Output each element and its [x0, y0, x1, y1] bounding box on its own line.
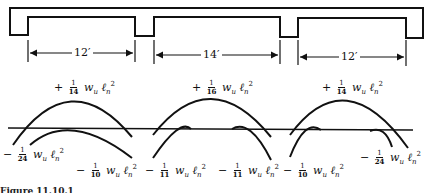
positive-moment-span-3: + 114 wu ℓn2: [322, 80, 383, 96]
negative-moment-exterior-right: − 124 wu ℓn2: [360, 150, 421, 166]
positive-moment-span-2: + 116 wu ℓn2: [192, 80, 253, 96]
span-3-label: 12′: [339, 51, 360, 62]
negative-moment-support-1-right: − 111 wu ℓn2: [145, 163, 206, 179]
figure-caption: Figure 11.10.1: [0, 186, 74, 193]
span-1-label: 12′: [72, 47, 93, 58]
span-2-label: 14′: [201, 49, 222, 60]
negative-moment-exterior-left: − 124 wu ℓn2: [3, 147, 64, 163]
negative-moment-support-2-left: − 111 wu ℓn2: [218, 163, 279, 179]
negative-moment-support-2-right: − 110 wu ℓn2: [283, 163, 344, 179]
positive-moment-span-1: + 114 wu ℓn2: [54, 80, 115, 96]
negative-moment-support-1-left: − 110 wu ℓn2: [76, 163, 137, 179]
slab-profile: [10, 8, 423, 38]
slab-outline: [10, 8, 423, 38]
